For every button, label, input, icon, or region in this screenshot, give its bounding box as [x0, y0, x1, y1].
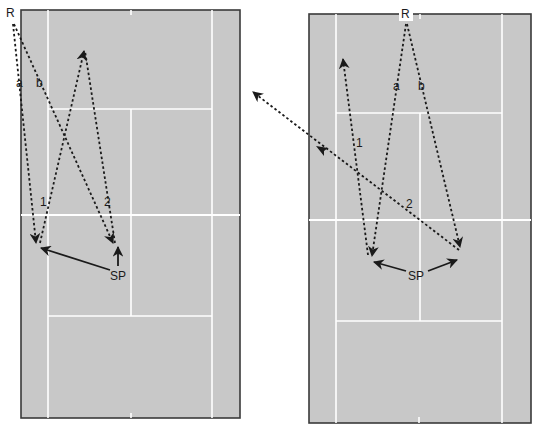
receiver-label: R	[401, 7, 410, 21]
path-b-label: b	[36, 76, 43, 90]
tennis-tactics-diagram: R a b 1 2 SP R a	[0, 0, 541, 434]
shot-2-label: 2	[406, 197, 413, 211]
shot-1-label: 1	[40, 195, 47, 209]
left-court: R a b 1 2 SP	[6, 6, 240, 418]
path-b-label: b	[418, 79, 425, 93]
right-court: R a b 1 2 SP	[253, 7, 531, 423]
server-position-label: SP	[408, 269, 424, 283]
shot-2-label: 2	[104, 195, 111, 209]
path-a-label: a	[393, 79, 400, 93]
server-position-label: SP	[110, 269, 126, 283]
shot-1-label: 1	[356, 136, 363, 150]
path-a-label: a	[16, 76, 23, 90]
receiver-label: R	[6, 6, 15, 20]
